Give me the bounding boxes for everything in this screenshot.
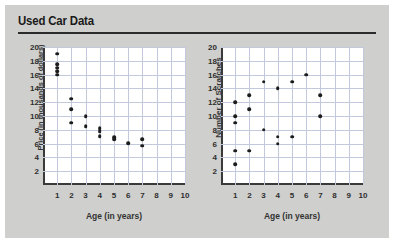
plot-area-scratches: 123456789102468101214161820	[221, 47, 363, 185]
data-point	[262, 128, 266, 132]
y-axis-tick-label: 10	[30, 112, 39, 121]
y-axis-tick-label: 8	[213, 125, 217, 134]
data-point	[276, 135, 280, 139]
y-axis-tick-label: 16	[30, 70, 39, 79]
x-axis-tick-label: 6	[126, 191, 130, 200]
x-axis-tick-label: 1	[233, 191, 237, 200]
y-axis-tick-label: 4	[35, 153, 39, 162]
x-axis-tick-label: 1	[55, 191, 59, 200]
y-axis-tick-label: 4	[213, 153, 217, 162]
y-axis-tick-label: 14	[30, 84, 39, 93]
data-point	[248, 94, 252, 98]
gridline-horizontal	[221, 171, 363, 172]
y-axis-tick-label: 2	[213, 167, 217, 176]
y-axis-tick-label: 20	[208, 43, 217, 52]
gridline-horizontal	[43, 75, 185, 76]
figure-title: Used Car Data	[18, 13, 94, 28]
gridline-vertical	[363, 47, 364, 185]
gridline-horizontal	[221, 102, 363, 103]
gridline-horizontal	[43, 171, 185, 172]
x-axis-tick-label: 9	[169, 191, 173, 200]
y-axis-tick-label: 6	[35, 139, 39, 148]
x-axis-tick-label: 10	[359, 191, 368, 200]
data-point	[248, 107, 252, 111]
gridline-horizontal	[43, 102, 185, 103]
data-point	[98, 129, 102, 133]
data-point	[70, 97, 74, 101]
data-point	[262, 80, 266, 84]
x-axis-tick-label: 6	[304, 191, 308, 200]
gridline-horizontal	[43, 130, 185, 131]
x-axis-tick-label: 4	[276, 191, 280, 200]
data-point	[290, 80, 294, 84]
y-axis-tick-label: 2	[35, 167, 39, 176]
gridline-horizontal	[221, 144, 363, 145]
data-point	[233, 163, 237, 167]
y-axis-tick-label: 16	[208, 70, 217, 79]
data-point	[276, 87, 280, 91]
data-point	[98, 134, 102, 138]
gridline-horizontal	[43, 47, 185, 48]
data-point	[141, 144, 145, 148]
gridline-horizontal	[43, 88, 185, 89]
y-axis-tick-label: 12	[30, 98, 39, 107]
data-point	[233, 121, 237, 125]
y-axis-tick-label: 12	[208, 98, 217, 107]
plot-area-price: 123456789102468101214161820	[43, 47, 185, 185]
x-axis-label-price: Age (in years)	[43, 211, 185, 221]
figure-container: Used Car Data Price (in thousands of dol…	[5, 5, 389, 238]
data-point	[248, 149, 252, 153]
data-point	[141, 138, 145, 142]
gridline-horizontal	[221, 61, 363, 62]
x-axis-label-scratches: Age (in years)	[221, 211, 363, 221]
data-point	[290, 135, 294, 139]
x-axis-tick-label: 7	[318, 191, 322, 200]
data-point	[70, 107, 74, 111]
x-axis-tick-label: 7	[140, 191, 144, 200]
data-point	[55, 73, 59, 77]
data-point	[126, 141, 130, 145]
title-divider	[18, 32, 376, 34]
data-point	[55, 52, 59, 56]
x-axis-tick-label: 2	[247, 191, 251, 200]
gridline-horizontal	[43, 157, 185, 158]
x-axis-tick-label: 8	[154, 191, 158, 200]
gridline-horizontal	[221, 75, 363, 76]
data-point	[276, 142, 280, 146]
gridline-vertical	[185, 47, 186, 185]
gridline-horizontal	[221, 116, 363, 117]
gridline-horizontal	[43, 144, 185, 145]
data-point	[233, 149, 237, 153]
x-axis-tick-label: 3	[261, 191, 265, 200]
data-point	[233, 114, 237, 118]
y-axis-tick-label: 18	[208, 56, 217, 65]
data-point	[304, 73, 308, 77]
y-axis-tick-label: 14	[208, 84, 217, 93]
data-point	[84, 125, 88, 129]
x-axis-tick-label: 5	[290, 191, 294, 200]
data-point	[233, 100, 237, 104]
x-axis-tick-label: 2	[69, 191, 73, 200]
x-axis-tick-label: 4	[98, 191, 102, 200]
x-axis-tick-label: 5	[112, 191, 116, 200]
data-point	[84, 114, 88, 118]
x-axis-tick-label: 9	[347, 191, 351, 200]
data-point	[112, 138, 116, 142]
gridline-horizontal	[43, 116, 185, 117]
x-axis-tick-label: 8	[332, 191, 336, 200]
gridline-horizontal	[221, 130, 363, 131]
plot-area-wrapper-price: 123456789102468101214161820	[43, 47, 185, 185]
data-point	[70, 121, 74, 125]
gridline-horizontal	[221, 47, 363, 48]
x-axis-tick-label: 10	[181, 191, 190, 200]
scatter-chart-scratches: Number of Scratches 12345678910246810121…	[197, 43, 383, 238]
gridline-horizontal	[221, 157, 363, 158]
y-axis-tick-label: 6	[213, 139, 217, 148]
data-point	[319, 94, 323, 98]
gridline-horizontal	[221, 88, 363, 89]
scatter-chart-price: Price (in thousands of dollars) 12345678…	[19, 43, 199, 238]
y-axis-tick-label: 10	[208, 112, 217, 121]
y-axis-tick-label: 8	[35, 125, 39, 134]
y-axis-tick-label: 18	[30, 56, 39, 65]
data-point	[319, 114, 323, 118]
